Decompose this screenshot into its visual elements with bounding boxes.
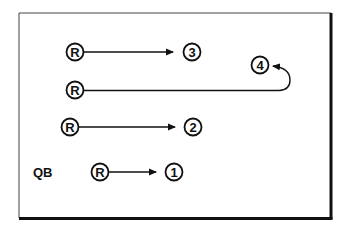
target-label: 3 xyxy=(188,45,195,60)
target-label: 2 xyxy=(189,120,196,135)
qb-label: QB xyxy=(33,165,53,180)
target-label: 4 xyxy=(256,58,264,73)
route-2: R 2 xyxy=(62,119,202,136)
receiver-label: R xyxy=(70,45,80,60)
receiver-label: R xyxy=(65,120,75,135)
route-1: R 1 xyxy=(92,164,183,181)
target-label: 1 xyxy=(170,165,177,180)
diagram-frame xyxy=(19,13,333,219)
receiver-label: R xyxy=(70,83,80,98)
receiver-label: R xyxy=(95,165,105,180)
route-4: R 4 xyxy=(67,57,291,99)
route-3: R 3 xyxy=(67,44,201,61)
route-diagram: R 3 R 4 R 2 QB R 1 xyxy=(0,0,350,232)
